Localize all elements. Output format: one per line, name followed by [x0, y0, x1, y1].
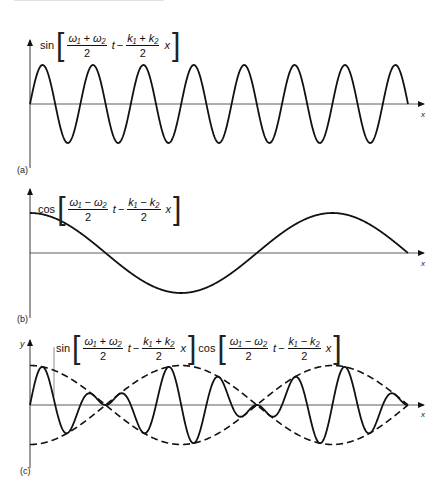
- fraction-k: k₁ − k₂ 2: [288, 335, 321, 362]
- fraction-omega: ω₁ + ω₂ 2: [83, 335, 122, 362]
- left-bracket: [: [56, 29, 64, 61]
- operator: −: [278, 342, 284, 354]
- numerator: ω₁ − ω₂: [229, 335, 268, 349]
- panel-label-b: (b): [17, 314, 28, 324]
- denominator: 2: [156, 349, 162, 362]
- left-bracket: [: [72, 332, 80, 364]
- x-axis-label: x: [421, 259, 425, 268]
- var-t: t: [112, 39, 115, 51]
- var-x: x: [326, 342, 332, 354]
- right-bracket: ]: [188, 332, 196, 364]
- wave-diagram: [0, 0, 447, 494]
- numerator: ω₁ + ω₂: [83, 335, 122, 349]
- numerator: k₁ + k₂: [126, 32, 159, 46]
- panel-label-c: (c): [20, 466, 31, 476]
- function-name: cos: [38, 203, 55, 215]
- right-bracket: ]: [333, 332, 341, 364]
- function-name: sin: [56, 342, 70, 354]
- operator: −: [118, 203, 124, 215]
- numerator: ω₁ − ω₂: [68, 196, 107, 210]
- denominator: 2: [245, 349, 251, 362]
- var-x: x: [166, 203, 172, 215]
- denominator: 2: [84, 46, 90, 59]
- fraction-k: k₁ + k₂ 2: [142, 335, 175, 362]
- x-axis-label: x: [421, 110, 425, 119]
- panel-label-a: (a): [17, 165, 28, 175]
- fraction-omega: ω₁ + ω₂ 2: [67, 32, 106, 59]
- var-x: x: [164, 39, 170, 51]
- y-axis-label: y: [20, 339, 25, 349]
- function-name: sin: [40, 39, 54, 51]
- numerator: k₁ + k₂: [142, 335, 175, 349]
- numerator: ω₁ + ω₂: [67, 32, 106, 46]
- denominator: 2: [85, 210, 91, 223]
- denominator: 2: [301, 349, 307, 362]
- fraction-k: k₁ − k₂ 2: [127, 196, 160, 223]
- denominator: 2: [100, 349, 106, 362]
- function-name: cos: [198, 342, 215, 354]
- var-t: t: [273, 342, 276, 354]
- right-bracket: ]: [172, 29, 180, 61]
- fraction-k: k₁ + k₂ 2: [126, 32, 159, 59]
- operator: −: [133, 342, 139, 354]
- left-bracket: [: [57, 193, 65, 225]
- var-x: x: [180, 342, 186, 354]
- fraction-omega: ω₁ − ω₂ 2: [68, 196, 107, 223]
- panel-c-formula: sin [ ω₁ + ω₂ 2 t − k₁ + k₂ 2 x ] cos [ …: [56, 333, 342, 363]
- numerator: k₁ − k₂: [288, 335, 321, 349]
- numerator: k₁ − k₂: [127, 196, 160, 210]
- x-axis-label: x: [421, 410, 425, 419]
- fraction-omega: ω₁ − ω₂ 2: [229, 335, 268, 362]
- operator: −: [117, 39, 123, 51]
- panel-b-formula: cos [ ω₁ − ω₂ 2 t − k₁ − k₂ 2 x ]: [38, 194, 181, 224]
- denominator: 2: [140, 46, 146, 59]
- var-t: t: [128, 342, 131, 354]
- left-bracket: [: [217, 332, 225, 364]
- right-bracket: ]: [173, 193, 181, 225]
- denominator: 2: [141, 210, 147, 223]
- panel-a-formula: sin [ ω₁ + ω₂ 2 t − k₁ + k₂ 2 x ]: [40, 30, 180, 60]
- var-t: t: [113, 203, 116, 215]
